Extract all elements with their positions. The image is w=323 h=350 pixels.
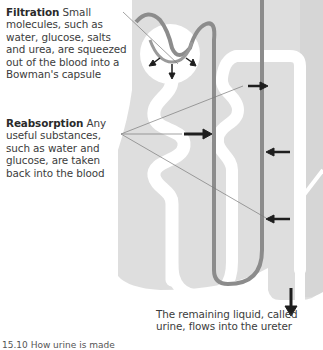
reabsorption-label: Reabsorption Any useful substances, such… [6,117,121,179]
urine-label: The remaining liquid, called urine, flow… [156,308,306,333]
filtration-title: Filtration [6,6,59,18]
filtration-label: Filtration Small molecules, such as wate… [6,6,128,80]
figure-caption: 15.10 How urine is made [2,340,115,350]
reabsorption-title: Reabsorption [6,117,83,129]
